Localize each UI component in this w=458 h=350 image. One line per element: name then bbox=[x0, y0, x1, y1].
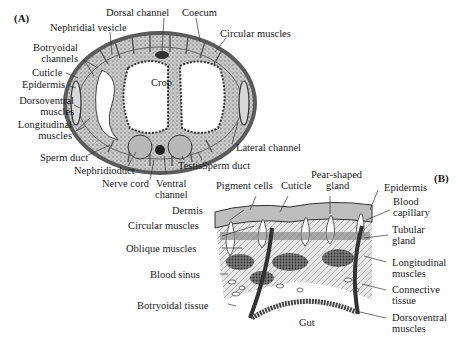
label-crop: Crop bbox=[151, 77, 172, 88]
label-dorsoventral-a-2: muscles bbox=[10, 106, 74, 117]
label-botryoidal-channels-1: Botryoidal bbox=[26, 42, 78, 53]
label-cuticle-a: Cuticle bbox=[32, 67, 62, 78]
label-ventral-channel-1: Ventral bbox=[156, 178, 186, 189]
label-connective-tissue-2: tissue bbox=[392, 295, 416, 306]
label-dorsal-channel: Dorsal channel bbox=[106, 7, 169, 18]
label-lateral-channel: Lateral channel bbox=[236, 142, 301, 153]
label-pear-shaped-1: Pear-shaped bbox=[311, 169, 362, 180]
label-nephridioduct: Nephridioduct bbox=[74, 165, 135, 176]
label-circular-muscles-b: Circular muscles bbox=[128, 220, 199, 231]
anatomy-figure: (A) Dorsal channel Coecum Nephridial ves… bbox=[0, 0, 458, 350]
label-longitudinal-b-2: muscles bbox=[392, 268, 426, 279]
label-gut: Gut bbox=[299, 317, 315, 328]
label-blood-capillary-2: capillary bbox=[393, 207, 430, 218]
label-cuticle-b: Cuticle bbox=[281, 180, 311, 191]
label-epidermis-a: Epidermis bbox=[22, 79, 65, 90]
label-sperm-duct-left: Sperm duct bbox=[40, 152, 88, 163]
label-dorsoventral-a-1: Dorsoventral bbox=[10, 95, 74, 106]
panel-a-tag: (A) bbox=[14, 12, 29, 24]
label-tubular-gland-2: gland bbox=[392, 235, 415, 246]
label-botryoidal-channels-2: channels bbox=[26, 53, 78, 64]
label-testis: Testis bbox=[178, 160, 202, 171]
label-oblique-muscles: Oblique muscles bbox=[126, 243, 196, 254]
label-blood-capillary-1: Blood bbox=[393, 196, 419, 207]
label-dorsoventral-b-1: Dorsoventral bbox=[392, 312, 447, 323]
label-ventral-channel-2: channel bbox=[155, 189, 188, 200]
label-circular-muscles-a: Circular muscles bbox=[220, 28, 291, 39]
label-blood-sinus: Blood sinus bbox=[150, 269, 200, 280]
label-longitudinal-b-1: Longitudinal bbox=[392, 257, 446, 268]
label-tubular-gland-1: Tubular bbox=[392, 224, 425, 235]
label-dermis: Dermis bbox=[172, 205, 203, 216]
label-longitudinal-a-1: Longitudinal bbox=[10, 119, 72, 130]
label-epidermis-b: Epidermis bbox=[384, 182, 427, 193]
label-pear-shaped-2: gland bbox=[326, 180, 349, 191]
label-dorsoventral-b-2: muscles bbox=[392, 323, 426, 334]
label-coecum: Coecum bbox=[182, 7, 217, 18]
label-connective-tissue-1: Connective bbox=[392, 284, 440, 295]
label-pigment-cells: Pigment cells bbox=[216, 180, 273, 191]
label-nephridial-vesicle: Nephridial vesicle bbox=[50, 22, 127, 33]
label-nerve-cord: Nerve cord bbox=[102, 178, 149, 189]
body-wall-drawing bbox=[215, 202, 372, 318]
label-sperm-duct-right: Sperm duct bbox=[202, 160, 250, 171]
label-longitudinal-a-2: muscles bbox=[10, 130, 72, 141]
label-botryoidal-tissue: Botryoidal tissue bbox=[137, 300, 208, 311]
panel-b-tag: (B) bbox=[434, 172, 449, 184]
